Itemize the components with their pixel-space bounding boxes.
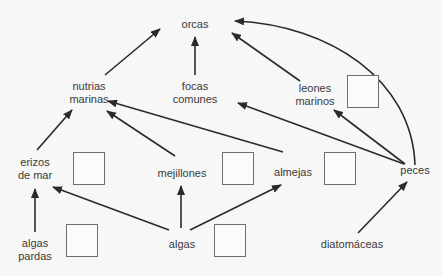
label-line-1: nutrias: [72, 80, 105, 92]
label-line-1: algas: [22, 237, 48, 249]
label-line-1: focas: [182, 80, 208, 92]
answer-box-algas[interactable]: [214, 224, 246, 257]
label-line-2: marinas: [69, 93, 108, 105]
label-line-2: comunes: [173, 93, 218, 105]
label-peces: peces: [400, 164, 429, 176]
node-focas-comunes: focascomunes: [173, 80, 218, 106]
node-mejillones: mejillones: [158, 167, 207, 180]
label-line-1: leones: [299, 82, 331, 94]
node-erizos-de-mar: erizosde mar: [18, 156, 52, 182]
node-algas-pardas: algaspardas: [18, 237, 52, 263]
label-line-2: marinos: [295, 95, 334, 107]
node-nutrias-marinas: nutriasmarinas: [69, 80, 108, 106]
answer-box-leones[interactable]: [347, 75, 379, 108]
answer-box-algas-pardas[interactable]: [66, 224, 98, 257]
node-peces: peces: [400, 164, 429, 177]
label-orcas: orcas: [182, 18, 209, 30]
answer-box-mejillones[interactable]: [222, 152, 254, 185]
node-almejas: almejas: [274, 166, 312, 179]
node-leones-marinos: leonesmarinos: [295, 82, 334, 108]
label-line-2: pardas: [18, 250, 52, 262]
node-diatomaceas: diatomáceas: [321, 238, 383, 251]
label-almejas: almejas: [274, 166, 312, 178]
answer-box-erizos[interactable]: [73, 152, 105, 185]
node-orcas: orcas: [182, 18, 209, 31]
label-algas: algas: [169, 238, 195, 250]
answer-box-almejas[interactable]: [324, 152, 356, 185]
label-line-2: de mar: [18, 169, 52, 181]
label-line-1: erizos: [20, 156, 49, 168]
label-diatomaceas: diatomáceas: [321, 238, 383, 250]
label-mejillones: mejillones: [158, 167, 207, 179]
node-algas: algas: [169, 238, 195, 251]
